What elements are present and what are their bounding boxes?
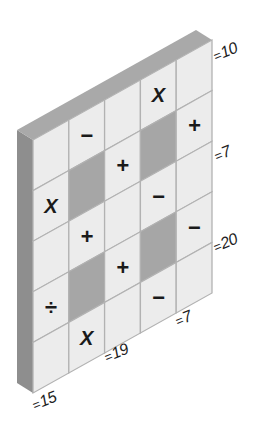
puzzle-board: −XX+++−÷+−X− =10 =7 =20 =15 =19 =7 [0, 0, 261, 439]
operator-symbol: + [188, 113, 201, 138]
operator-symbol: ÷ [45, 295, 57, 320]
operator-symbol: X [151, 84, 167, 106]
operator-symbol: X [43, 195, 59, 217]
operator-symbol: + [80, 224, 93, 249]
isometric-grid: −XX+++−÷+−X− [0, 0, 261, 439]
operator-symbol: − [188, 215, 201, 240]
operator-symbol: X [79, 327, 95, 349]
operator-symbol: − [80, 123, 93, 148]
operator-symbol: + [116, 153, 129, 178]
operator-symbol: + [116, 255, 129, 280]
operator-symbol: − [152, 184, 165, 209]
board-side-face [17, 130, 33, 393]
operator-symbol: − [152, 285, 165, 310]
